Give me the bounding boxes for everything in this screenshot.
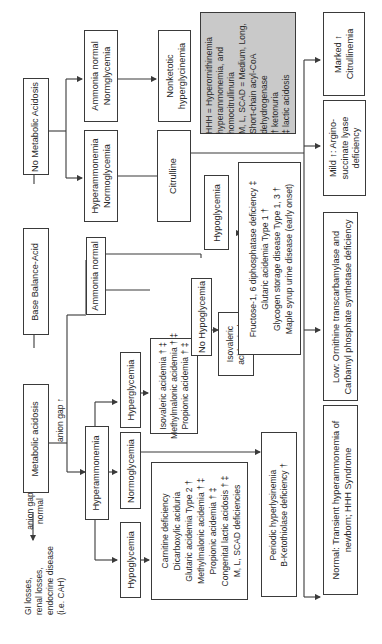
text-line: (i.e. CAH) — [56, 578, 67, 615]
text-line: Ammonia normal — [89, 41, 101, 110]
text-line: Carbamyl phosphate synthetase deficiency — [341, 219, 353, 394]
node-metabolic-acidosis: Metabolic acidosis — [23, 384, 49, 493]
node-label: No Metabolic Acidosis — [30, 82, 41, 172]
text-line: hyperglycinemia — [175, 43, 187, 109]
node-citrulline: Citrulline — [157, 130, 191, 222]
text-line: Hyperammonemia — [89, 138, 101, 213]
node-normoglycemia-list: Periodic hyperlysinemia B-Ketothiolase d… — [261, 432, 297, 597]
disease-item: Glutaric acidemia Type 2 † — [182, 480, 194, 582]
node-label: Hypoglycemia — [125, 531, 136, 589]
text-line: Marked ↑ — [332, 35, 344, 73]
disease-item: Propionic acidemia † ‡ — [180, 343, 191, 430]
node-hypoglycemia-list: Carnitine deficiency Dicarboxylic acidur… — [151, 462, 248, 600]
node-ammonia-normal-hypoglycemia-list: Fructose-1, 6 diphosphatase deficiency ‡… — [238, 162, 301, 355]
node-hyperglycemia: Hyperglycemia — [120, 352, 141, 428]
node-base-balance-acid: Base Balance-Acid — [23, 228, 49, 335]
legend-line: hyperammonemia, and — [215, 47, 226, 134]
node-normal-transient-hyperammonemia: Normal: Transient hyperammonemia of newb… — [323, 405, 358, 595]
node-nma-ammonia-normal: Ammonia normal Normglycemia — [84, 30, 118, 122]
edge-label: anion gap ↑ — [55, 398, 66, 442]
node-no-metabolic-acidosis: No Metabolic Acidosis — [23, 78, 49, 175]
node-nonketotic-hyperglycinemia: Nonketotic hyperglycinemia — [158, 30, 191, 122]
text-line: Nonketotic — [163, 54, 175, 97]
legend-line: homocitrullinuria — [226, 72, 237, 134]
metabolic-acidosis-flowchart: Base Balance-Acid No Metabolic Acidosis … — [0, 0, 382, 644]
node-gi-renal-endocrine: GI losses, renal losses, endocrine disea… — [20, 525, 70, 615]
text-line: endocrine disease — [45, 546, 56, 615]
legend-box: HHH = Hyperornithinemia hyperammonemia, … — [200, 12, 296, 134]
disease-item: Fructose-1, 6 diphosphatase deficiency ‡ — [246, 180, 258, 337]
node-label: Hyperglycemia — [125, 360, 136, 421]
node-label: Ammonia normal — [90, 241, 101, 310]
text-line: Normal: Transient hyperammonemia of — [329, 421, 341, 580]
node-label: Hypoglycemia — [211, 184, 222, 242]
node-label: Citrulline — [168, 158, 179, 194]
disease-item: M, L, SCAD deficiencies — [230, 485, 242, 578]
node-no-hypoglycemia: No Hypoglycemia — [191, 278, 212, 356]
node-nma-hyperammonemia: Hyperammonemia Normoglycemia — [84, 130, 118, 222]
disease-item: Isovaleric — [225, 326, 236, 362]
disease-item: Congenital lactic acidosis † ‡ — [218, 476, 230, 587]
disease-item: Methylmalonic acidemia † ‡ — [194, 478, 206, 584]
disease-item: B-Ketothiolase deficiency † — [279, 463, 290, 567]
legend-line: Short-chain acyl-CoA — [248, 54, 259, 134]
edge-label-line: normal — [35, 498, 45, 524]
text-line: GI losses, — [23, 577, 34, 615]
node-hyperammonemia: Hyperammonemia — [85, 426, 109, 520]
disease-item: Isovaleric acidemia † ‡ — [158, 342, 169, 429]
node-ammonia-normal-hypoglycemia: Hypoglycemia — [204, 175, 229, 250]
disease-item: Methylmalonic acidemia † ‡ — [169, 333, 180, 439]
text-line: Low: Ornithine transcarbamylase and — [329, 230, 341, 382]
node-normoglycemia: Normoglycemia — [120, 432, 141, 509]
legend-line: HHH = Hyperornithinemia — [204, 37, 215, 134]
disease-item: Maple syrup urine disease (early onset) — [282, 183, 294, 333]
legend-line: dehydrogenase — [259, 75, 270, 134]
disease-item: Dicarboxylic aciduria — [170, 492, 182, 571]
text-line: Mild ↑: Argino- — [327, 119, 339, 177]
disease-item: Periodic hyperlysinemia — [268, 469, 279, 560]
node-label: Base Balance-Acid — [30, 243, 41, 321]
text-line: Normglycemia — [101, 47, 113, 106]
text-line: succinate lyase — [339, 117, 351, 180]
text-line: renal losses, — [34, 567, 45, 615]
text-line: newborn; HHH Syndrome — [341, 448, 353, 553]
edge-label-anion-gap-high: anion gap ↑ — [54, 395, 68, 445]
disease-item: Glutaric acidemia Type 1 † — [258, 208, 270, 310]
legend-line: ‡ lactic acidosis — [281, 74, 292, 134]
disease-item: Glycogen storage disease Type 1, 3 † — [270, 186, 282, 330]
node-label: Metabolic acidosis — [30, 401, 41, 476]
node-label: Normoglycemia — [125, 439, 136, 503]
node-label: Hyperammonemia — [91, 435, 102, 510]
node-hypoglycemia: Hypoglycemia — [120, 522, 141, 598]
disease-item: Carnitine deficiency — [158, 494, 170, 569]
node-marked-citrullinemia: Marked ↑ Citrullinemia — [323, 12, 365, 96]
node-mild-argininosuccinate-lyase: Mild ↑: Argino- succinate lyase deficien… — [323, 100, 366, 196]
text-line: Normoglycemia — [101, 144, 113, 208]
text-line: Citrullinemia — [344, 29, 356, 80]
legend-line: M, L, SCAD = Medium, Long, — [237, 23, 248, 134]
node-ammonia-normal: Ammonia normal — [86, 237, 106, 315]
node-low-otc-cps-deficiency: Low: Ornithine transcarbamylase and Carb… — [323, 212, 358, 401]
text-line: deficiency — [350, 128, 362, 169]
disease-item: Propionic acidemia † ‡ — [206, 488, 218, 575]
node-label: No Hypoglycemia — [196, 281, 207, 353]
legend-line: † ketonuria — [270, 92, 281, 134]
